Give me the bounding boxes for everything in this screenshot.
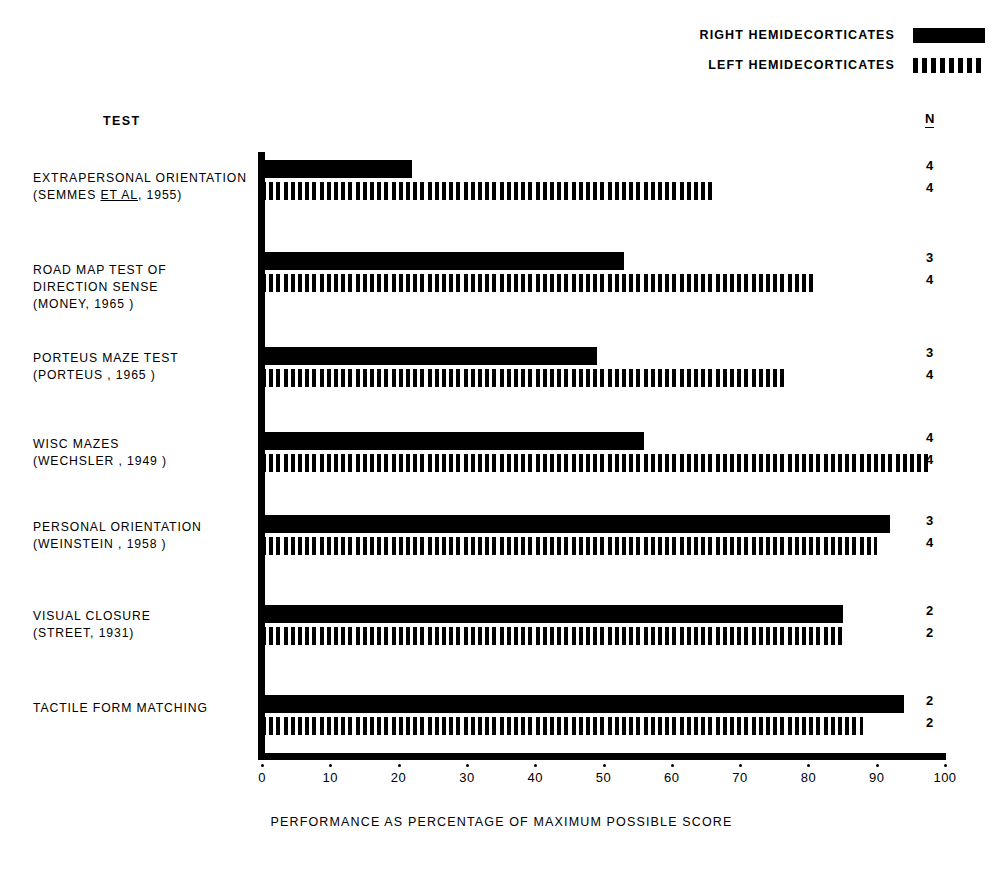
test-label-text: TACTILE FORM MATCHING: [33, 701, 208, 715]
x-axis-tick-label: 70: [732, 770, 747, 785]
bar-left-hemidecorticates: [262, 537, 877, 555]
bar-group: [262, 347, 945, 387]
test-label-line: (MONEY, 1965 ): [33, 296, 167, 313]
bar-left-hemidecorticates: [262, 182, 713, 200]
bar-right-hemidecorticates: [262, 432, 644, 450]
test-label-line: (PORTEUS , 1965 ): [33, 367, 179, 384]
bar-right-hemidecorticates: [262, 160, 412, 178]
n-value-left: 4: [926, 452, 933, 467]
test-label-line: TACTILE FORM MATCHING: [33, 700, 208, 717]
test-label-text: (STREET, 1931): [33, 626, 134, 640]
bar-right-hemidecorticates: [262, 515, 890, 533]
test-label: ROAD MAP TEST OFDIRECTION SENSE(MONEY, 1…: [33, 262, 167, 313]
x-axis-tick-mark: [603, 764, 606, 767]
test-label-line: PERSONAL ORIENTATION: [33, 519, 202, 536]
bar-right-hemidecorticates: [262, 347, 597, 365]
test-label-line: VISUAL CLOSURE: [33, 608, 151, 625]
bar-group: [262, 160, 945, 200]
bar-group: [262, 605, 945, 645]
test-label-text: , 1955): [138, 188, 182, 202]
x-axis-tick-mark: [329, 764, 332, 767]
bar-left-hemidecorticates: [262, 454, 931, 472]
x-axis-tick-mark: [739, 764, 742, 767]
bar-right-hemidecorticates: [262, 605, 843, 623]
bar-left-hemidecorticates: [262, 717, 863, 735]
test-label-text: PORTEUS MAZE TEST: [33, 351, 179, 365]
x-axis-tick-mark: [466, 764, 469, 767]
n-value-left: 4: [926, 180, 933, 195]
test-label: PERSONAL ORIENTATION(WEINSTEIN , 1958 ): [33, 519, 202, 553]
x-axis-tick-label: 80: [801, 770, 816, 785]
x-axis-tick-mark: [261, 764, 264, 767]
test-label-line: ROAD MAP TEST OF: [33, 262, 167, 279]
test-label-emphasis: ET AL: [100, 188, 137, 202]
bar-group: [262, 695, 945, 735]
x-axis-tick-label: 20: [391, 770, 406, 785]
x-axis-tick-label: 50: [596, 770, 611, 785]
n-value-right: 3: [926, 513, 933, 528]
n-value-right: 3: [926, 250, 933, 265]
test-label-text: (MONEY, 1965 ): [33, 297, 134, 311]
n-value-left: 2: [926, 715, 933, 730]
n-value-left: 4: [926, 272, 933, 287]
bar-group: [262, 252, 945, 292]
n-value-right: 4: [926, 430, 933, 445]
test-label-line: EXTRAPERSONAL ORIENTATION: [33, 170, 247, 187]
n-value-right: 4: [926, 158, 933, 173]
test-label-text: ROAD MAP TEST OF: [33, 263, 167, 277]
test-label-line: PORTEUS MAZE TEST: [33, 350, 179, 367]
test-label-line: (WEINSTEIN , 1958 ): [33, 536, 202, 553]
test-label-text: DIRECTION SENSE: [33, 280, 158, 294]
x-axis-tick-mark: [398, 764, 401, 767]
x-axis-tick-mark: [671, 764, 674, 767]
test-label-text: PERSONAL ORIENTATION: [33, 520, 202, 534]
bar-group: [262, 515, 945, 555]
x-axis-title: PERFORMANCE AS PERCENTAGE OF MAXIMUM POS…: [0, 815, 1003, 829]
test-label: VISUAL CLOSURE(STREET, 1931): [33, 608, 151, 642]
test-label: WISC MAZES(WECHSLER , 1949 ): [33, 436, 167, 470]
bar-left-hemidecorticates: [262, 274, 815, 292]
test-label-text: (WEINSTEIN , 1958 ): [33, 537, 167, 551]
test-label-text: EXTRAPERSONAL ORIENTATION: [33, 171, 247, 185]
x-axis-tick-label: 40: [527, 770, 542, 785]
test-label: TACTILE FORM MATCHING: [33, 700, 208, 717]
bar-group: [262, 432, 945, 472]
test-label-line: (SEMMES ET AL, 1955): [33, 187, 247, 204]
n-value-right: 3: [926, 345, 933, 360]
n-value-right: 2: [926, 603, 933, 618]
test-label-line: (STREET, 1931): [33, 625, 151, 642]
x-axis-tick-label: 10: [323, 770, 338, 785]
n-value-left: 4: [926, 535, 933, 550]
bar-right-hemidecorticates: [262, 252, 624, 270]
test-label-text: VISUAL CLOSURE: [33, 609, 151, 623]
test-label: PORTEUS MAZE TEST(PORTEUS , 1965 ): [33, 350, 179, 384]
n-value-left: 4: [926, 367, 933, 382]
test-label-line: DIRECTION SENSE: [33, 279, 167, 296]
test-label-line: (WECHSLER , 1949 ): [33, 453, 167, 470]
x-axis-tick-label: 90: [869, 770, 884, 785]
x-axis-tick-label: 100: [933, 770, 956, 785]
x-axis-tick-mark: [944, 764, 947, 767]
x-axis-tick-label: 60: [664, 770, 679, 785]
x-axis-tick-mark: [876, 764, 879, 767]
x-axis-tick-label: 0: [258, 770, 266, 785]
test-label-text: (WECHSLER , 1949 ): [33, 454, 167, 468]
test-label-text: (SEMMES: [33, 188, 100, 202]
x-axis-line: [258, 753, 946, 760]
bar-left-hemidecorticates: [262, 627, 843, 645]
test-label-line: WISC MAZES: [33, 436, 167, 453]
x-axis-tick-mark: [807, 764, 810, 767]
n-value-right: 2: [926, 693, 933, 708]
test-label: EXTRAPERSONAL ORIENTATION(SEMMES ET AL, …: [33, 170, 247, 204]
test-label-text: WISC MAZES: [33, 437, 119, 451]
test-label-text: (PORTEUS , 1965 ): [33, 368, 156, 382]
n-value-left: 2: [926, 625, 933, 640]
bar-left-hemidecorticates: [262, 369, 788, 387]
chart-plot-area: EXTRAPERSONAL ORIENTATION(SEMMES ET AL, …: [0, 0, 1003, 870]
bar-right-hemidecorticates: [262, 695, 904, 713]
x-axis-tick-label: 30: [459, 770, 474, 785]
x-axis-tick-mark: [534, 764, 537, 767]
